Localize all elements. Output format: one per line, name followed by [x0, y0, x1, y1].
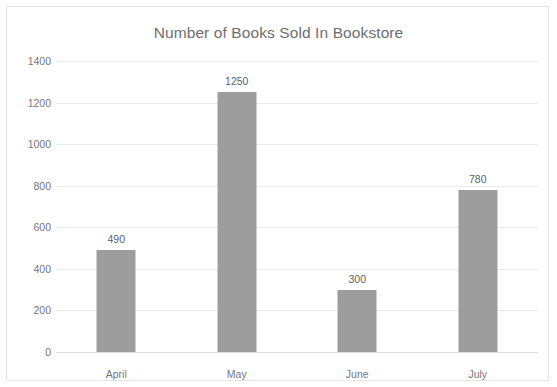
bar-value-label: 300	[348, 273, 366, 285]
bar-group: 300	[297, 61, 418, 352]
plot-area: 4901250300780	[56, 61, 538, 352]
bar[interactable]	[97, 250, 136, 352]
bar-value-label: 490	[107, 233, 125, 245]
y-tick-label: 600	[11, 221, 51, 233]
y-tick-label: 1400	[11, 55, 51, 67]
chart-frame: Number of Books Sold In Bookstore 020040…	[6, 6, 549, 381]
x-tick-label: June	[346, 368, 369, 380]
bar-value-label: 1250	[225, 75, 248, 87]
bar[interactable]	[458, 190, 497, 352]
y-tick-label: 200	[11, 304, 51, 316]
y-tick-label: 1000	[11, 138, 51, 150]
chart-title: Number of Books Sold In Bookstore	[7, 24, 550, 42]
y-tick-label: 800	[11, 180, 51, 192]
bar[interactable]	[338, 290, 377, 352]
bar-group: 490	[56, 61, 177, 352]
y-tick-label: 1200	[11, 97, 51, 109]
bar-group: 780	[418, 61, 539, 352]
x-tick-label: July	[468, 368, 487, 380]
x-tick-label: April	[106, 368, 127, 380]
axis-baseline	[56, 352, 538, 353]
y-tick-label: 400	[11, 263, 51, 275]
x-tick-label: May	[227, 368, 247, 380]
y-tick-label: 0	[11, 346, 51, 358]
bar[interactable]	[217, 92, 256, 352]
y-axis: 0200400600800100012001400	[7, 61, 51, 352]
x-axis: AprilMayJuneJuly	[56, 359, 538, 381]
bar-group: 1250	[177, 61, 298, 352]
bar-value-label: 780	[469, 173, 487, 185]
